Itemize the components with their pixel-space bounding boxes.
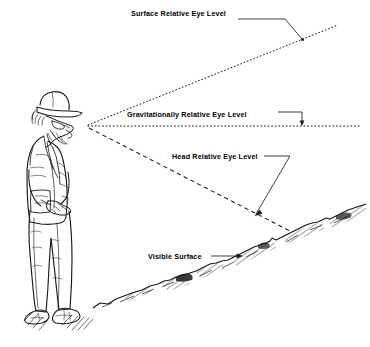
trouser-fold-lines <box>31 231 62 279</box>
ground-under-feet <box>24 312 93 330</box>
trousers-outline <box>29 210 72 312</box>
diagram-canvas <box>0 0 370 347</box>
cap-seam <box>52 92 53 107</box>
label-visible-surface: Visible Surface <box>148 252 202 261</box>
label-head-relative-eye-level: Head Relative Eye Level <box>172 152 258 161</box>
jacket-lapel-right <box>53 148 60 184</box>
leader-lines-group <box>211 19 304 258</box>
label-gravitationally-relative-eye-level: Gravitationally Relative Eye Level <box>127 110 247 119</box>
cap-crown <box>40 92 69 110</box>
leader-head-relative <box>256 156 290 214</box>
jacket-outline <box>27 136 67 224</box>
leader-surface-relative <box>238 19 302 39</box>
hand-detail <box>51 203 66 213</box>
cap-brim <box>37 107 82 117</box>
leader-surface-relative-endpoint <box>301 38 304 41</box>
eye-level-diagram: Surface Relative Eye Level Gravitational… <box>0 0 370 347</box>
beard-strokes <box>48 132 66 143</box>
standing-man-figure <box>24 92 93 330</box>
leader-gravitationally-relative-arrowhead <box>300 121 305 127</box>
shoe-detail <box>31 311 72 321</box>
label-surface-relative-eye-level: Surface Relative Eye Level <box>131 9 226 18</box>
leader-gravitationally-relative <box>278 112 302 124</box>
leg-seam-left <box>34 218 38 308</box>
sight-lines-group <box>88 25 361 232</box>
head-relative-eye-level-line <box>89 128 292 232</box>
